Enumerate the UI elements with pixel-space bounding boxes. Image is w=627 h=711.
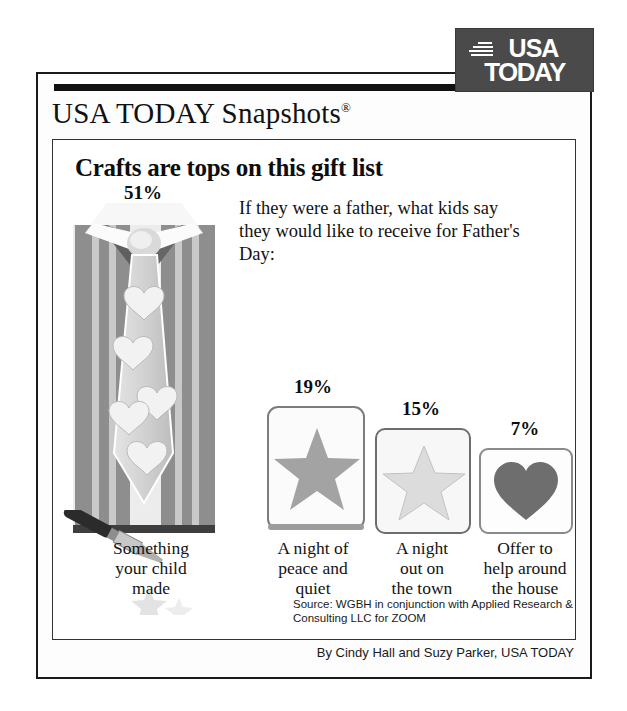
star-card-1 xyxy=(265,404,369,534)
snapshot-inner-box: Crafts are tops on this gift list If the… xyxy=(52,139,576,640)
value-label-3: 15% xyxy=(368,398,474,420)
star-card-2 xyxy=(373,426,475,538)
category-label-2-line-2: peace and xyxy=(251,558,375,578)
page-title-text: USA TODAY Snapshots xyxy=(52,97,341,129)
category-label-1: Something your child made xyxy=(71,538,231,598)
category-label-1-line-3: made xyxy=(71,578,231,598)
chart-area: 51% xyxy=(53,140,575,639)
category-label-3: A night out on the town xyxy=(367,538,477,598)
category-label-3-line-2: out on xyxy=(367,558,477,578)
value-label-1: 51% xyxy=(63,182,223,204)
logo-line-today: TODAY xyxy=(484,59,565,85)
page-title: USA TODAY Snapshots® xyxy=(52,97,351,130)
category-label-4-line-2: help around xyxy=(467,558,576,578)
value-label-4: 7% xyxy=(473,418,576,440)
heart-card xyxy=(477,446,576,538)
category-label-2: A night of peace and quiet xyxy=(251,538,375,598)
category-label-2-line-3: quiet xyxy=(251,578,375,598)
category-label-3-line-3: the town xyxy=(367,578,477,598)
category-label-1-line-2: your child xyxy=(71,558,231,578)
category-label-3-line-1: A night xyxy=(367,538,477,558)
category-label-1-line-1: Something xyxy=(71,538,231,558)
category-label-4: Offer to help around the house xyxy=(467,538,576,598)
value-label-2: 19% xyxy=(258,376,368,398)
category-label-4-line-3: the house xyxy=(467,578,576,598)
usa-today-logo: USA TODAY xyxy=(455,28,594,92)
byline: By Cindy Hall and Suzy Parker, USA TODAY xyxy=(36,645,592,660)
category-label-4-line-1: Offer to xyxy=(467,538,576,558)
registered-mark: ® xyxy=(341,100,351,115)
shirt-tie-hearts-icon xyxy=(69,203,219,533)
source-note: Source: WGBH in conjunction with Applied… xyxy=(293,598,573,625)
category-label-2-line-1: A night of xyxy=(251,538,375,558)
